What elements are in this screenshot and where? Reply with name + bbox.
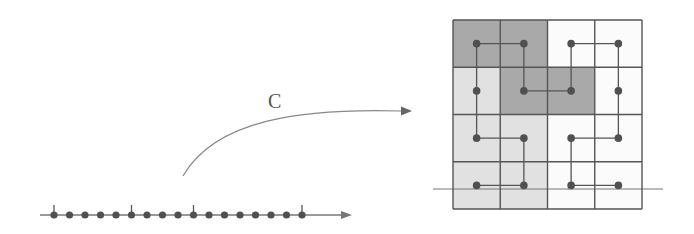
sequence-dot — [205, 211, 212, 218]
sequence-dot — [298, 211, 305, 218]
curve-node — [615, 134, 623, 142]
curve-node — [567, 40, 575, 48]
mapping-label: C — [268, 90, 281, 112]
sequence-dot — [50, 211, 57, 218]
sequence-dot — [221, 211, 228, 218]
sequence-dot — [159, 211, 166, 218]
sequence-dot — [283, 211, 290, 218]
curve-node — [473, 40, 481, 48]
sequence-dot — [174, 211, 181, 218]
sequence-dot — [252, 211, 259, 218]
sequence-dot — [190, 211, 197, 218]
sequence-dot — [112, 211, 119, 218]
curve-node — [473, 87, 481, 95]
sequence-dot — [236, 211, 243, 218]
curve-node — [567, 182, 575, 190]
sequence-dot — [81, 211, 88, 218]
diagram-canvas: C — [0, 0, 694, 234]
mapping-arrow: C — [183, 90, 412, 176]
sequence-line — [40, 205, 352, 219]
curve-node — [567, 87, 575, 95]
curve-node — [520, 87, 528, 95]
curve-node — [615, 40, 623, 48]
curve-node — [567, 134, 575, 142]
curve-node — [615, 182, 623, 190]
curve-node — [520, 182, 528, 190]
mapping-curve — [183, 111, 402, 176]
sequence-dot — [128, 211, 135, 218]
curve-node — [615, 87, 623, 95]
sequence-dot — [66, 211, 73, 218]
curve-node — [473, 182, 481, 190]
sequence-dot — [97, 211, 104, 218]
curve-node — [473, 134, 481, 142]
grid-2d — [433, 20, 663, 209]
axis-arrowhead-icon — [341, 211, 352, 219]
curve-node — [520, 40, 528, 48]
arrowhead-icon — [401, 107, 412, 116]
curve-node — [520, 134, 528, 142]
sequence-dot — [267, 211, 274, 218]
sequence-dot — [143, 211, 150, 218]
